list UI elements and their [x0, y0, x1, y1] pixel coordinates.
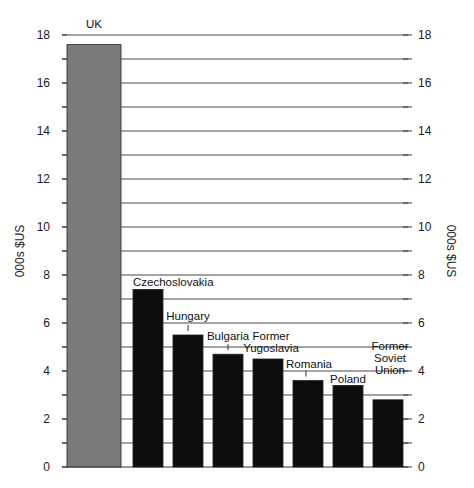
bar-former-soviet-union — [373, 400, 403, 467]
left-y-axis: 024681012141618 — [37, 28, 67, 474]
right-tick-label: 16 — [418, 76, 432, 90]
bar-label: Former — [371, 340, 408, 352]
left-tick-label: 14 — [37, 124, 51, 138]
bar-poland — [333, 385, 363, 467]
left-tick-label: 0 — [43, 460, 50, 474]
right-tick-label: 12 — [418, 172, 432, 186]
left-tick-label: 6 — [43, 316, 50, 330]
right-tick-label: 2 — [418, 412, 425, 426]
right-axis-title: 000s $US — [444, 225, 458, 278]
left-tick-label: 8 — [43, 268, 50, 282]
bar-label: Romania — [286, 358, 333, 370]
right-tick-label: 4 — [418, 364, 425, 378]
bar-czechoslovakia — [133, 289, 163, 467]
left-tick-label: 2 — [43, 412, 50, 426]
left-tick-label: 16 — [37, 76, 51, 90]
bar-romania — [293, 381, 323, 467]
bar-former-yugoslavia — [253, 359, 283, 467]
bar-label: Former — [252, 330, 289, 342]
bars — [67, 45, 403, 467]
bar-chart: 024681012141618 024681012141618 UKCzecho… — [0, 0, 474, 488]
bar-hungary — [173, 335, 203, 467]
right-tick-label: 6 — [418, 316, 425, 330]
bar-label: Poland — [330, 373, 366, 385]
bar-label: Union — [375, 364, 405, 376]
right-tick-label: 0 — [418, 460, 425, 474]
bar-label: Czechoslovakia — [133, 276, 214, 288]
bar-label: Yugoslavia — [243, 342, 299, 354]
bar-label: Bulgaria — [207, 330, 250, 342]
bar-uk — [67, 45, 121, 467]
bar-bulgaria — [213, 354, 243, 467]
bar-label: Soviet — [374, 352, 407, 364]
left-axis-title: 000s $US — [13, 225, 27, 278]
left-tick-label: 18 — [37, 28, 51, 42]
bar-label: Hungary — [166, 310, 210, 322]
bar-label: UK — [86, 18, 102, 30]
left-tick-label: 10 — [37, 220, 51, 234]
right-y-axis: 024681012141618 — [403, 28, 432, 474]
right-tick-label: 10 — [418, 220, 432, 234]
left-tick-label: 4 — [43, 364, 50, 378]
right-tick-label: 14 — [418, 124, 432, 138]
left-tick-label: 12 — [37, 172, 51, 186]
right-tick-label: 8 — [418, 268, 425, 282]
right-tick-label: 18 — [418, 28, 432, 42]
